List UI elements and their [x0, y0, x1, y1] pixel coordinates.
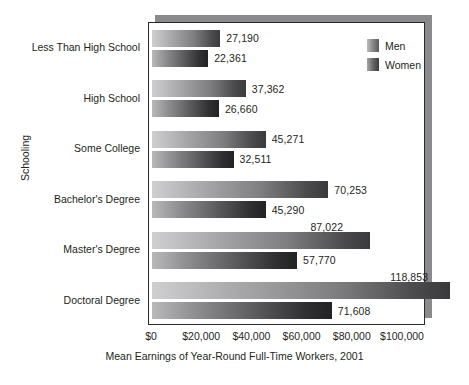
bar-men	[152, 232, 370, 249]
bar-value-label: 71,608	[338, 305, 371, 317]
bar-row: 37,362	[152, 80, 424, 97]
x-tick-label: $60,000	[283, 330, 321, 342]
x-tick-label: $100,000	[380, 330, 424, 342]
bar-value-label: 45,271	[272, 133, 305, 145]
category-label: High School	[83, 92, 140, 104]
category-label: Bachelor's Degree	[54, 193, 140, 205]
x-tick-label: $80,000	[333, 330, 371, 342]
bar-value-label: 22,361	[214, 52, 247, 64]
bar-men	[152, 282, 450, 299]
category-label: Some College	[74, 142, 140, 154]
bar-value-label: 70,253	[334, 184, 367, 196]
legend-swatch-men	[367, 39, 379, 52]
bar-row: 71,608	[152, 302, 424, 319]
bar-row: 45,290	[152, 201, 424, 218]
bar-men	[152, 181, 328, 198]
legend-label: Women	[385, 59, 421, 71]
bar-women	[152, 50, 208, 67]
bar-row: 57,770	[152, 252, 424, 269]
bar-men	[152, 30, 220, 47]
legend-swatch-women	[367, 58, 379, 71]
plot-area: 27,19022,36137,36226,66045,27132,51170,2…	[148, 22, 425, 325]
bar-value-label: 87,022	[310, 221, 343, 233]
bar-row: 70,253	[152, 181, 424, 198]
x-tick-label: $0	[145, 330, 157, 342]
x-tick-label: $40,000	[232, 330, 270, 342]
category-label: Master's Degree	[63, 243, 140, 255]
legend-item-men: Men	[367, 39, 405, 52]
bar-row: 26,660	[152, 100, 424, 117]
bar-men	[152, 131, 266, 148]
bar-value-label: 26,660	[225, 103, 258, 115]
legend-label: Men	[385, 40, 405, 52]
bar-women	[152, 201, 266, 218]
bar-women	[152, 151, 234, 168]
bar-women	[152, 302, 332, 319]
bar-value-label: 27,190	[226, 32, 259, 44]
x-axis-tick-labels: $0$20,000$40,000$60,000$80,000$100,000	[148, 330, 425, 346]
bar-value-label: 32,511	[240, 153, 272, 165]
bar-row: 32,511	[152, 151, 424, 168]
bar-row: 118,853	[152, 282, 424, 299]
bar-women	[152, 252, 297, 269]
bar-value-label: 37,362	[252, 83, 285, 95]
bar-men	[152, 80, 246, 97]
bar-value-label: 118,853	[390, 271, 428, 283]
bar-chart-figure: Schooling Less Than High SchoolHigh Scho…	[0, 0, 469, 385]
category-axis-labels: Less Than High SchoolHigh SchoolSome Col…	[0, 22, 144, 325]
legend-item-women: Women	[367, 58, 421, 71]
bar-value-label: 57,770	[303, 254, 336, 266]
x-axis-title: Mean Earnings of Year-Round Full-Time Wo…	[0, 350, 469, 362]
category-label: Less Than High School	[32, 41, 140, 53]
bar-value-label: 45,290	[272, 204, 305, 216]
bar-row: 45,271	[152, 131, 424, 148]
bar-row: 87,022	[152, 232, 424, 249]
x-tick-label: $20,000	[182, 330, 220, 342]
category-label: Doctoral Degree	[64, 294, 140, 306]
bar-women	[152, 100, 219, 117]
